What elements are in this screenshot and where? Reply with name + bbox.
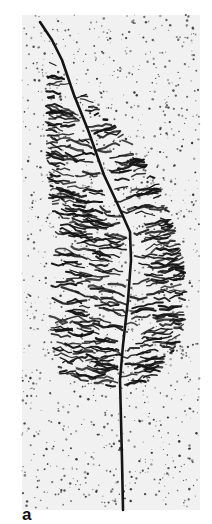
panel-label: a [22,506,31,523]
panel-field [22,15,200,510]
neuron-micrograph [0,0,212,524]
